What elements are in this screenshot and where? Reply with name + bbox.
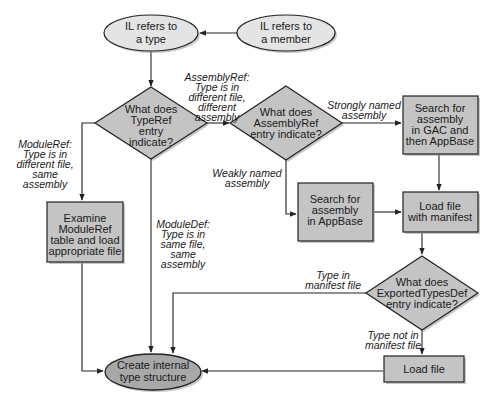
svg-text:assembly: assembly (161, 258, 206, 270)
process-examine-moduleref: Examine ModuleRef table and load appropr… (47, 202, 125, 264)
svg-text:manifest file: manifest file (365, 339, 421, 351)
node-label: then AppBase (406, 135, 475, 147)
process-search-appbase: Search for assembly in AppBase (298, 183, 375, 243)
edge-assemblyref-to-appbase (286, 160, 296, 214)
flowchart: IL refers to a type IL refers to a membe… (0, 0, 498, 402)
process-load-manifest: Load file with manifest (403, 192, 480, 234)
edge-typeref-to-moduleref (82, 123, 95, 200)
node-label: type structure (120, 371, 187, 383)
edge-label-moduledef: ModuleDef: Type is in same file, same as… (156, 218, 210, 270)
process-search-gac: Search for assembly in GAC and then AppB… (403, 96, 480, 156)
node-label: entry indicate? (250, 128, 322, 140)
node-label: Create internal (117, 359, 189, 371)
edge-exported-to-create (173, 293, 366, 353)
edge-label-weakly-named: Weakly named assembly (212, 167, 282, 189)
node-label: with manifest (407, 211, 472, 223)
node-label: a type (136, 33, 166, 45)
decision-assemblyref: What does AssemblyRef entry indicate? (230, 86, 344, 162)
node-label: Load file (403, 363, 445, 375)
edges (82, 33, 439, 371)
svg-text:assembly: assembly (225, 177, 270, 189)
node-label: entry indicate? (386, 298, 458, 310)
node-label: a member (261, 33, 311, 45)
node-label: indicate? (129, 136, 173, 148)
node-label: in AppBase (307, 215, 363, 227)
decision-exportedtypes: What does ExportedTypesDef entry indicat… (366, 256, 480, 332)
node-label: IL refers to (260, 20, 312, 32)
process-load-file: Load file (384, 356, 466, 384)
edge-moduleref-to-create (82, 263, 103, 371)
svg-text:manifest file: manifest file (305, 279, 361, 291)
svg-text:assembly: assembly (342, 109, 387, 121)
svg-text:assembly: assembly (195, 111, 240, 123)
node-il-member: IL refers to a member (237, 15, 337, 53)
node-label: IL refers to (125, 20, 177, 32)
terminal-create-type: Create internal type structure (105, 354, 203, 392)
edge-label-type-not-in-manifest: Type not in manifest file (365, 329, 421, 351)
edge-label-moduleref: ModuleRef: Type is in different file, sa… (16, 138, 73, 190)
edge-label-strongly-named: Strongly named assembly (327, 99, 402, 121)
node-label: appropriate file (49, 245, 122, 257)
node-il-type: IL refers to a type (104, 15, 200, 53)
svg-text:assembly: assembly (23, 178, 68, 190)
edge-label-type-in-manifest: Type in manifest file (305, 269, 361, 291)
